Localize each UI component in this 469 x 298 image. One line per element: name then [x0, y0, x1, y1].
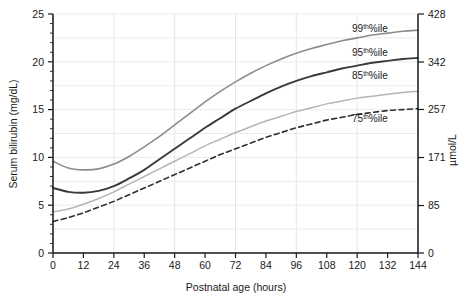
y2-tick-label: 257 — [428, 103, 446, 115]
bilirubin-nomogram-chart: 01224364860728496108120132144 0510152025… — [0, 0, 469, 298]
percentile-label-75: 75th%ile — [352, 113, 388, 125]
x-tick-label: 48 — [169, 259, 181, 271]
x-tick-label: 108 — [318, 259, 336, 271]
y-axis-title: Serum bilirubin (mg/dL) — [7, 79, 19, 188]
y-tick-label: 15 — [32, 103, 44, 115]
x-tick-label: 24 — [108, 259, 120, 271]
y-tick-label: 10 — [32, 151, 44, 163]
y-tick-label: 20 — [32, 56, 44, 68]
x-tick-label: 84 — [260, 259, 272, 271]
x-tick-label: 12 — [78, 259, 90, 271]
y2-tick-label: 171 — [428, 151, 446, 163]
x-tick-label: 36 — [138, 259, 150, 271]
x-tick-label: 72 — [230, 259, 242, 271]
x-tick-label: 132 — [379, 259, 397, 271]
percentile-label-85: 85th%ile — [352, 70, 388, 82]
x-tick-label: 120 — [348, 259, 366, 271]
y2-tick-label: 0 — [428, 247, 434, 259]
x-tick-label: 144 — [409, 259, 427, 271]
y-tick-label: 5 — [38, 199, 44, 211]
y2-tick-label: 342 — [428, 56, 446, 68]
y2-axis-title: µmol/L — [446, 134, 458, 166]
x-tick-label: 60 — [199, 259, 211, 271]
chart-page: 01224364860728496108120132144 0510152025… — [0, 0, 469, 298]
y-tick-label: 0 — [38, 247, 44, 259]
percentile-label-99: 99th%ile — [352, 23, 388, 35]
y2-tick-label: 85 — [428, 199, 440, 211]
x-tick-label: 96 — [290, 259, 302, 271]
x-tick-label: 0 — [50, 259, 56, 271]
y-tick-label: 25 — [32, 8, 44, 20]
percentile-label-95: 95th%ile — [352, 47, 388, 59]
y2-tick-label: 428 — [428, 8, 446, 20]
footer-caption — [0, 289, 469, 298]
